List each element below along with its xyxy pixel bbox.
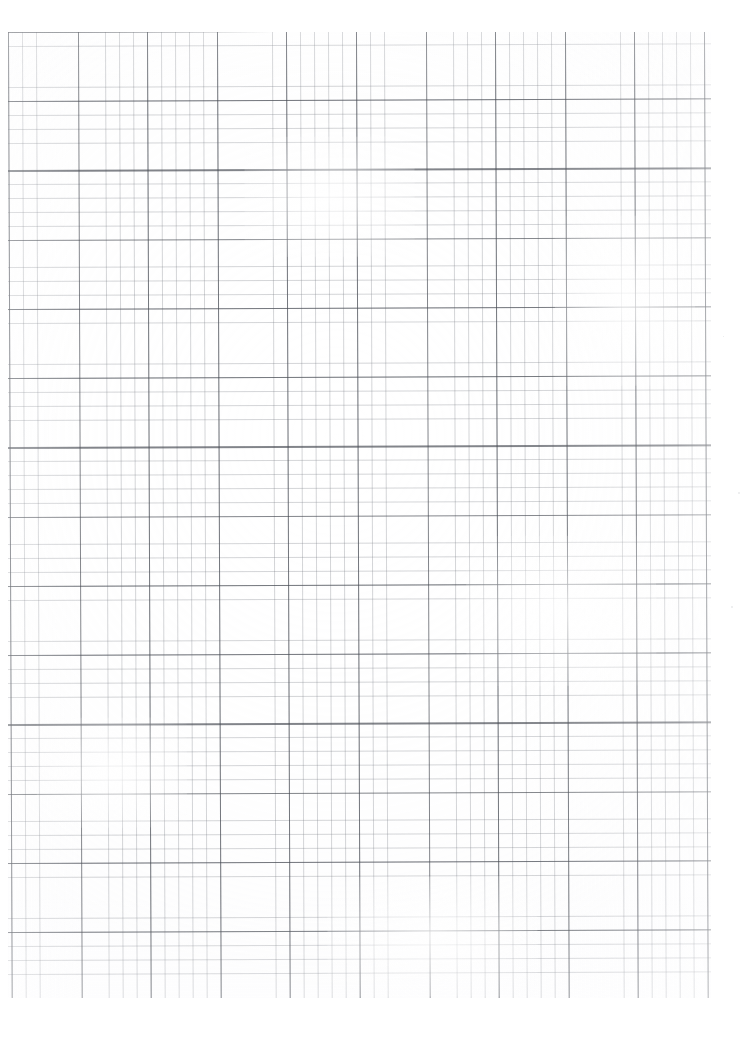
major-gridlines: [8, 32, 711, 998]
scan-speck: [723, 336, 724, 337]
scanned-page: [0, 0, 749, 1052]
page-margin-bottom: [0, 998, 749, 1052]
page-margin-top: [0, 0, 749, 32]
page-margin-right: [711, 0, 749, 1052]
grid-ruling-layer: [8, 32, 711, 998]
scan-speck: [738, 492, 740, 494]
scan-speck: [731, 606, 733, 608]
page-margin-left: [0, 0, 8, 1052]
graph-paper-sheet: [8, 32, 711, 998]
